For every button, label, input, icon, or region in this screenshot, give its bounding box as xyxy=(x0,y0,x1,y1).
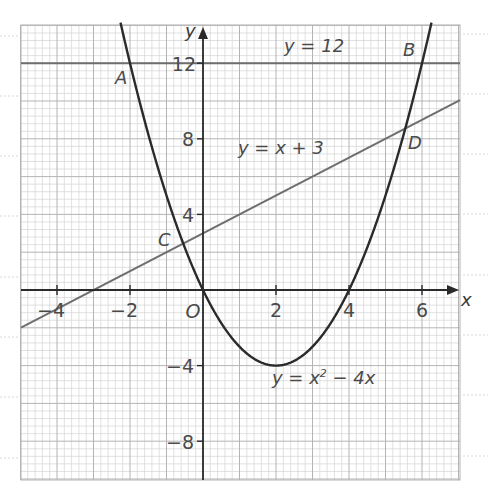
graph-figure: x y −4 −2 O 2 4 6 12 8 4 −4 −8 A B C D y… xyxy=(0,0,488,497)
x-tick-label-2: 2 xyxy=(270,299,282,321)
x-axis-arrow-icon xyxy=(447,285,459,295)
point-label-b: B xyxy=(403,39,415,60)
y-axis-label: y xyxy=(184,20,196,41)
point-label-a: A xyxy=(114,67,127,88)
origin-label: O xyxy=(186,300,201,322)
x-tick-label-minus-4: −4 xyxy=(37,299,65,321)
x-tick-label-minus-2: −2 xyxy=(110,299,138,321)
point-label-d: D xyxy=(408,132,422,153)
equation-parabola-exponent: 2 xyxy=(320,367,327,380)
y-tick-label-12: 12 xyxy=(172,53,196,75)
y-tick-label-8: 8 xyxy=(182,128,194,150)
x-axis-label: x xyxy=(460,289,472,310)
equation-label-y-equals-12: y = 12 xyxy=(283,35,344,56)
point-label-c: C xyxy=(158,229,171,250)
equation-label-parabola: y = x2 − 4x xyxy=(271,367,376,388)
equation-parabola-prefix: y = x xyxy=(271,367,320,388)
y-tick-label-4: 4 xyxy=(182,204,194,226)
x-tick-label-6: 6 xyxy=(416,299,428,321)
equation-parabola-suffix: − 4x xyxy=(327,367,376,388)
y-tick-label-minus-8: −8 xyxy=(166,431,194,453)
y-tick-label-minus-4: −4 xyxy=(166,355,194,377)
line-y-equals-x-plus-3 xyxy=(21,100,460,327)
equation-label-y-equals-x-plus-3: y = x + 3 xyxy=(237,137,324,158)
x-tick-label-4: 4 xyxy=(343,299,355,321)
plot-canvas: x y −4 −2 O 2 4 6 12 8 4 −4 −8 A B C D y… xyxy=(0,0,488,497)
